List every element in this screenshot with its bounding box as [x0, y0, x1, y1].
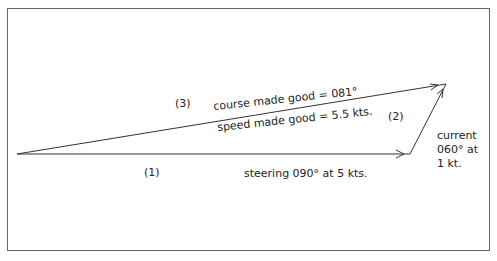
- leg3-number: (3): [175, 97, 191, 110]
- leg2-number: (2): [388, 110, 404, 123]
- steering-label: steering 090° at 5 kts.: [244, 167, 368, 180]
- leg1-number: (1): [144, 166, 160, 179]
- current-label-line2: 060° at: [437, 143, 478, 157]
- course-arrowhead-icon: [430, 84, 438, 90]
- current-label-line1: current: [437, 129, 478, 143]
- current-label: current 060° at 1 kt.: [437, 129, 478, 171]
- current-label-line3: 1 kt.: [437, 157, 478, 171]
